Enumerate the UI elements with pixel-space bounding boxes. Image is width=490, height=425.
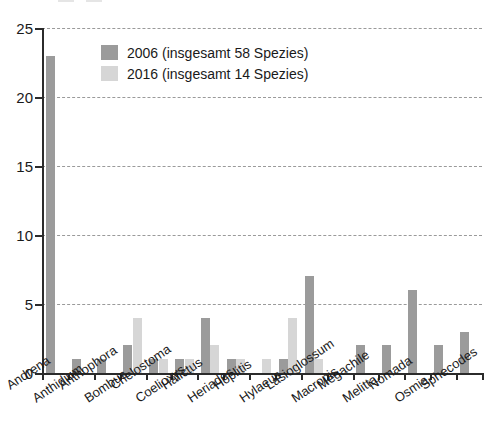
legend-label-2016: 2016 (insgesamt 14 Spezies) — [127, 67, 308, 81]
legend-label-2006: 2006 (insgesamt 58 Spezies) — [127, 46, 308, 60]
bee-genera-bar-chart: 0510152025 AndrenaAnthidiumAnthophoraBom… — [0, 0, 490, 425]
y-axis-tick-label: 5 — [0, 297, 33, 312]
x-axis-tick — [456, 373, 458, 380]
cropped-top-artifact — [0, 0, 490, 9]
legend-item-2006: 2006 (insgesamt 58 Spezies) — [101, 42, 308, 63]
y-axis-line — [42, 28, 44, 374]
x-axis-tick — [146, 373, 148, 380]
x-axis-tick — [404, 373, 406, 380]
y-axis-tick-label: 25 — [0, 21, 33, 36]
chart-legend: 2006 (insgesamt 58 Spezies) 2016 (insges… — [101, 42, 308, 84]
y-axis-tick-label: 15 — [0, 159, 33, 174]
bar-2006-andrena — [46, 56, 55, 373]
y-axis-tick — [35, 97, 43, 99]
gridline — [42, 235, 482, 236]
gridline — [42, 28, 482, 29]
y-axis-tick — [35, 304, 43, 306]
gridline — [42, 166, 482, 167]
y-axis-tick — [35, 28, 43, 30]
y-axis-tick-label: 10 — [0, 228, 33, 243]
x-axis-tick — [249, 373, 251, 380]
x-axis-tick — [301, 373, 303, 380]
gridline — [42, 97, 482, 98]
x-axis-tick — [353, 373, 355, 380]
legend-swatch-2006 — [101, 45, 118, 60]
y-axis-tick — [35, 235, 43, 237]
x-axis-tick — [197, 373, 199, 380]
legend-item-2016: 2016 (insgesamt 14 Spezies) — [101, 63, 308, 84]
x-axis-tick — [94, 373, 96, 380]
y-axis-tick-label: 20 — [0, 90, 33, 105]
y-axis-tick — [35, 166, 43, 168]
x-axis-tick — [42, 373, 44, 380]
legend-swatch-2016 — [101, 66, 118, 81]
x-axis-tick — [482, 373, 484, 380]
